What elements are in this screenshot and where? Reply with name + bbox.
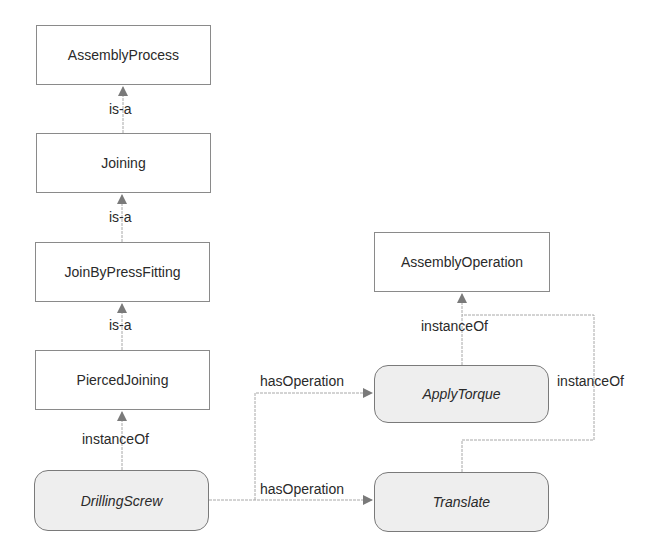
edge-label-has-operation-translate: hasOperation (260, 481, 344, 497)
node-apply-torque[interactable]: ApplyTorque (374, 365, 549, 423)
edge-label-translate-instance-of: instanceOf (557, 373, 624, 389)
node-label: AssemblyProcess (68, 47, 179, 63)
node-label: Translate (433, 494, 490, 510)
edge-label-press-fitting-is-a: is-a (109, 209, 132, 225)
node-label: PiercedJoining (77, 372, 169, 388)
edge-label-pierced-is-a: is-a (109, 317, 132, 333)
node-assembly-process[interactable]: AssemblyProcess (36, 25, 211, 85)
node-joining[interactable]: Joining (36, 133, 211, 193)
edge-label-has-operation-apply-torque: hasOperation (260, 373, 344, 389)
node-label: JoinByPressFitting (65, 264, 181, 280)
node-pierced-joining[interactable]: PiercedJoining (35, 350, 210, 410)
node-label: ApplyTorque (422, 386, 500, 402)
node-translate[interactable]: Translate (374, 472, 549, 532)
node-join-by-press-fitting[interactable]: JoinByPressFitting (35, 242, 210, 302)
node-assembly-operation[interactable]: AssemblyOperation (374, 232, 550, 292)
ontology-diagram: AssemblyProcess Joining JoinByPressFitti… (0, 0, 665, 560)
edge-label-drilling-instance-of: instanceOf (82, 431, 149, 447)
node-label: DrillingScrew (81, 493, 163, 509)
edge-label-joining-is-a: is-a (109, 101, 132, 117)
node-label: AssemblyOperation (401, 254, 523, 270)
edge-label-apply-torque-instance-of: instanceOf (421, 318, 488, 334)
node-label: Joining (101, 155, 145, 171)
node-drilling-screw[interactable]: DrillingScrew (34, 470, 209, 531)
